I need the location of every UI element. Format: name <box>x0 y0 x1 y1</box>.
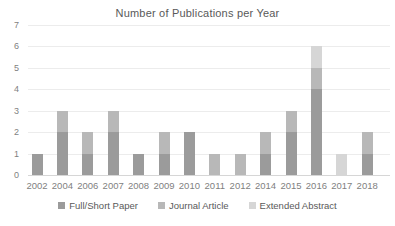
bar-segment-2004 <box>57 111 68 132</box>
y-axis-tick-label: 5 <box>4 63 19 73</box>
bar-segment-2017 <box>336 154 347 175</box>
bar-segment-2018 <box>362 132 373 153</box>
bar-segment-2008 <box>133 154 144 175</box>
bar-segment-2015 <box>286 111 297 132</box>
bar-segment-2016 <box>311 89 322 175</box>
bar-segment-2011 <box>209 154 220 175</box>
legend-swatch-icon <box>158 202 165 209</box>
bar-segment-2014 <box>260 132 271 153</box>
legend-swatch-icon <box>249 202 256 209</box>
y-axis-tick-label: 6 <box>4 41 19 51</box>
y-axis-tick-label: 2 <box>4 127 19 137</box>
y-axis-tick-label: 4 <box>4 84 19 94</box>
chart-title: Number of Publications per Year <box>0 7 395 19</box>
bar-segment-2007 <box>108 111 119 132</box>
legend-label: Journal Article <box>169 200 229 211</box>
legend-label: Extended Abstract <box>260 200 337 211</box>
x-axis-tick-label: 2018 <box>352 180 382 191</box>
legend-label: Full/Short Paper <box>69 200 138 211</box>
chart-legend: Full/Short PaperJournal ArticleExtended … <box>0 200 395 211</box>
gridline <box>28 89 390 90</box>
legend-item: Extended Abstract <box>249 200 337 211</box>
gridline <box>28 46 390 47</box>
y-axis-tick-label: 0 <box>4 170 19 180</box>
gridline <box>28 111 390 112</box>
bar-segment-2010 <box>184 132 195 175</box>
bar-segment-2006 <box>82 154 93 175</box>
y-axis-tick-label: 3 <box>4 106 19 116</box>
bar-segment-2007 <box>108 132 119 175</box>
y-axis-tick-label: 1 <box>4 149 19 159</box>
bar-segment-2012 <box>235 154 246 175</box>
bar-segment-2009 <box>159 154 170 175</box>
legend-item: Journal Article <box>158 200 229 211</box>
y-axis-tick-label: 7 <box>4 20 19 30</box>
x-axis-line <box>28 175 390 176</box>
bar-segment-2006 <box>82 132 93 153</box>
bar-segment-2018 <box>362 154 373 175</box>
gridline <box>28 68 390 69</box>
bar-segment-2004 <box>57 132 68 175</box>
legend-swatch-icon <box>58 202 65 209</box>
bar-segment-2015 <box>286 132 297 175</box>
publications-per-year-chart: Number of Publications per Year Full/Sho… <box>0 0 395 226</box>
legend-item: Full/Short Paper <box>58 200 138 211</box>
bar-segment-2014 <box>260 154 271 175</box>
gridline <box>28 25 390 26</box>
bar-segment-2016 <box>311 68 322 89</box>
bar-segment-2009 <box>159 132 170 153</box>
bar-segment-2016 <box>311 46 322 67</box>
bar-segment-2002 <box>32 154 43 175</box>
